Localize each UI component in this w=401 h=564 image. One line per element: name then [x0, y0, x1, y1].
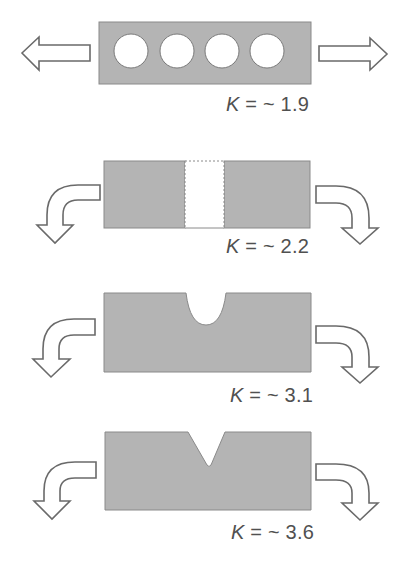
k-label-row-of-holes: K = ~ 1.9	[226, 93, 309, 116]
k-relation: = ~	[244, 384, 285, 406]
rectangular-slot	[185, 161, 224, 228]
right-bending-arrow-icon	[316, 464, 378, 520]
k-label-rectangular-slot: K = ~ 2.2	[226, 235, 309, 258]
left-tension-arrow-icon	[22, 37, 90, 70]
plate-left-segment	[104, 161, 185, 228]
plate-with-v-notch	[105, 432, 311, 510]
k-value: 3.1	[285, 384, 313, 406]
k-value: 1.9	[281, 93, 309, 115]
hole-1	[114, 34, 148, 68]
hole-2	[160, 34, 194, 68]
right-bending-arrow-icon	[316, 326, 378, 383]
panel-u-notch	[33, 293, 378, 383]
left-bending-arrow-icon	[34, 462, 96, 519]
k-label-u-notch: K = ~ 3.1	[230, 384, 313, 407]
k-relation: = ~	[240, 235, 281, 257]
k-symbol: K	[231, 521, 245, 543]
left-bending-arrow-icon	[37, 185, 100, 243]
left-bending-arrow-icon	[33, 319, 95, 377]
k-value: 3.6	[286, 521, 314, 543]
right-bending-arrow-icon	[316, 186, 378, 244]
panel-row-of-holes	[22, 22, 387, 84]
panel-v-notch	[34, 432, 378, 520]
hole-4	[250, 34, 284, 68]
plate-with-u-notch	[104, 293, 311, 372]
panel-rectangular-slot	[37, 161, 378, 244]
k-symbol: K	[230, 384, 244, 406]
hole-3	[205, 34, 239, 68]
k-relation: = ~	[240, 93, 281, 115]
stress-concentration-diagram	[0, 0, 401, 564]
k-relation: = ~	[245, 521, 286, 543]
k-label-v-notch: K = ~ 3.6	[231, 521, 314, 544]
k-symbol: K	[226, 235, 240, 257]
right-tension-arrow-icon	[319, 38, 387, 70]
k-value: 2.2	[281, 235, 309, 257]
plate-right-segment	[224, 161, 310, 228]
k-symbol: K	[226, 93, 240, 115]
